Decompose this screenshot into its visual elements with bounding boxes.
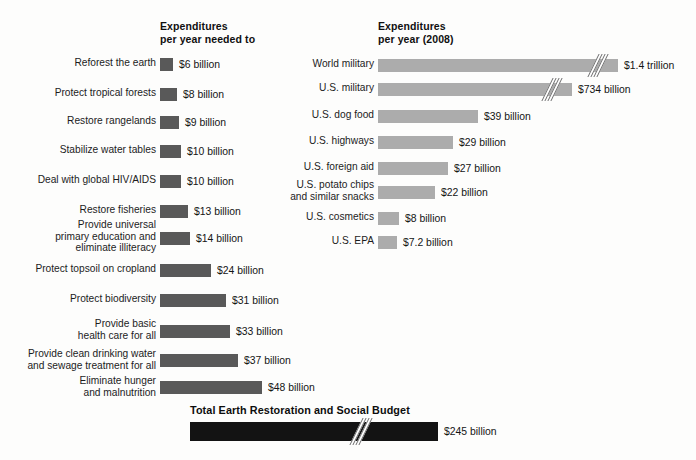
bar-category-label: U.S. military bbox=[319, 82, 374, 94]
bar bbox=[160, 232, 190, 245]
bar-category-label: Provide clean drinking water and sewage … bbox=[27, 348, 156, 371]
bar bbox=[378, 59, 618, 72]
figure-chart: Expenditures per year needed to Expendit… bbox=[0, 0, 696, 460]
bar bbox=[160, 294, 226, 307]
bar-category-label: Eliminate hunger and malnutrition bbox=[80, 375, 156, 398]
bar bbox=[160, 264, 211, 277]
bar-value-label: $9 billion bbox=[185, 117, 226, 128]
bar-category-label: World military bbox=[312, 58, 374, 70]
bar-value-label: $31 billion bbox=[232, 295, 279, 306]
bar bbox=[378, 236, 397, 249]
bar bbox=[160, 145, 181, 158]
bar-value-label: $27 billion bbox=[454, 163, 501, 174]
bar bbox=[160, 175, 181, 188]
bar-category-label: Protect tropical forests bbox=[55, 87, 156, 99]
bar bbox=[378, 162, 448, 175]
bar-category-label: Restore fisheries bbox=[80, 204, 156, 216]
total-value-label: $245 billion bbox=[444, 426, 497, 437]
bar bbox=[160, 354, 238, 367]
bar bbox=[378, 212, 399, 225]
bar bbox=[160, 116, 179, 129]
bar-value-label: $33 billion bbox=[236, 326, 283, 337]
bar-value-label: $10 billion bbox=[187, 176, 234, 187]
bar bbox=[378, 110, 478, 123]
bar bbox=[378, 186, 435, 199]
bar bbox=[160, 381, 262, 394]
bar bbox=[160, 88, 177, 101]
bar-value-label: $6 billion bbox=[179, 59, 220, 70]
bar-value-label: $13 billion bbox=[194, 206, 241, 217]
bar-value-label: $7.2 billion bbox=[403, 237, 453, 248]
bar-category-label: U.S. highways bbox=[309, 135, 374, 147]
bar-category-label: Protect biodiversity bbox=[70, 293, 156, 305]
bar-category-label: U.S. dog food bbox=[312, 109, 374, 121]
bar-category-label: U.S. cosmetics bbox=[306, 211, 374, 223]
bar-value-label: $22 billion bbox=[441, 187, 488, 198]
bar-category-label: U.S. EPA bbox=[332, 235, 374, 247]
bar-value-label: $14 billion bbox=[196, 233, 243, 244]
bar-category-label: U.S. foreign aid bbox=[304, 161, 374, 173]
bar-value-label: $29 billion bbox=[459, 137, 506, 148]
bar-category-label: U.S. potato chips and similar snacks bbox=[290, 179, 374, 202]
bar-value-label: $8 billion bbox=[405, 213, 446, 224]
bar-category-label: Stabilize water tables bbox=[60, 144, 156, 156]
bar-value-label: $24 billion bbox=[217, 265, 264, 276]
bar-category-label: Provide universal primary education and … bbox=[55, 219, 156, 254]
bar bbox=[160, 58, 173, 71]
bar bbox=[160, 205, 188, 218]
total-bar bbox=[190, 422, 438, 441]
bar-category-label: Reforest the earth bbox=[74, 57, 156, 69]
bar-category-label: Protect topsoil on cropland bbox=[35, 263, 156, 275]
bar-category-label: Restore rangelands bbox=[67, 115, 156, 127]
bar-value-label: $37 billion bbox=[244, 355, 291, 366]
bar bbox=[378, 83, 572, 96]
bar-category-label: Provide basic health care for all bbox=[78, 318, 156, 341]
bar-value-label: $734 billion bbox=[578, 84, 631, 95]
bar-category-label: Deal with global HIV/AIDS bbox=[38, 174, 156, 186]
bar-value-label: $39 billion bbox=[484, 111, 531, 122]
bar-value-label: $8 billion bbox=[183, 89, 224, 100]
bar bbox=[160, 325, 230, 338]
total-heading: Total Earth Restoration and Social Budge… bbox=[190, 404, 410, 416]
right-column-heading: Expenditures per year (2008) bbox=[378, 20, 454, 45]
left-column-heading: Expenditures per year needed to bbox=[160, 20, 255, 45]
bar-value-label: $48 billion bbox=[268, 382, 315, 393]
bar-value-label: $1.4 trillion bbox=[624, 60, 674, 71]
bar-value-label: $10 billion bbox=[187, 146, 234, 157]
bar bbox=[378, 136, 453, 149]
